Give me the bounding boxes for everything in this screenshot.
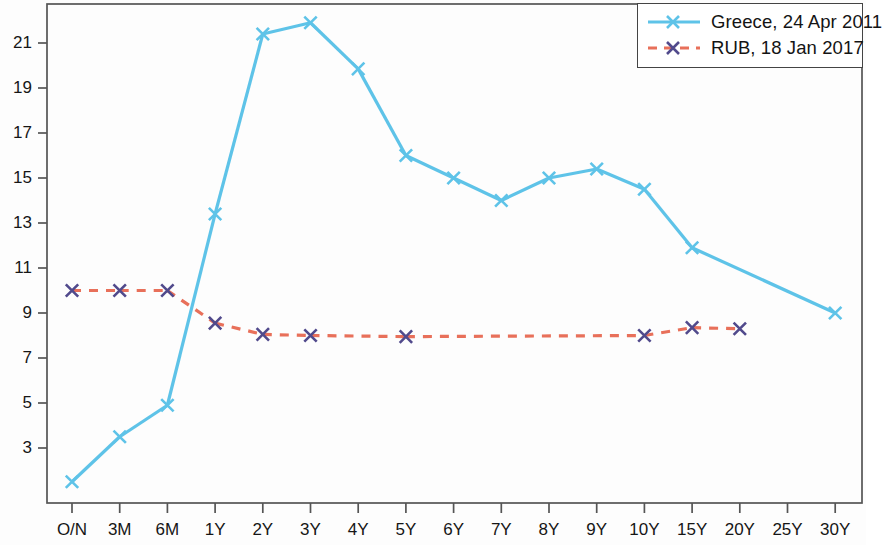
legend-item-greece: Greece, 24 Apr 2011 — [647, 9, 850, 35]
data-point-marker — [686, 242, 698, 254]
series-line-segment — [263, 334, 311, 335]
series-line-segment — [358, 69, 406, 156]
series-line-segment — [120, 405, 168, 437]
data-point-marker — [161, 284, 173, 296]
y-tick-label: 13 — [6, 213, 32, 233]
series-greece — [66, 17, 842, 488]
series-layer — [66, 17, 842, 488]
data-point-marker — [734, 323, 746, 335]
y-tick-label: 9 — [6, 303, 32, 323]
x-tick-label: 30Y — [805, 520, 865, 540]
legend-key-greece — [647, 12, 701, 32]
series-line-segment — [167, 214, 215, 405]
legend-key-rub — [647, 38, 701, 58]
data-point-marker — [447, 172, 459, 184]
y-tick-label: 21 — [6, 33, 32, 53]
series-line-segment — [501, 178, 549, 201]
series-rub — [66, 284, 746, 343]
data-point-marker — [638, 183, 650, 195]
series-line-segment — [311, 23, 359, 69]
y-axis-ticks — [38, 43, 47, 448]
data-point-marker — [829, 307, 841, 319]
data-point-marker — [352, 63, 364, 75]
data-point-marker — [66, 476, 78, 488]
series-line-segment — [215, 34, 263, 214]
x-axis-ticks — [72, 503, 835, 513]
series-line-segment — [72, 437, 120, 482]
y-tick-label: 11 — [6, 258, 32, 278]
series-line-segment — [644, 328, 692, 336]
data-point-marker — [495, 194, 507, 206]
data-point-marker — [400, 149, 412, 161]
y-tick-label: 7 — [6, 348, 32, 368]
legend-label-greece: Greece, 24 Apr 2011 — [711, 11, 882, 33]
chart-legend: Greece, 24 Apr 2011 RUB, 18 Jan 2017 — [637, 3, 863, 68]
series-line-segment — [597, 169, 645, 189]
series-line-segment — [263, 23, 311, 34]
series-line-segment — [549, 169, 597, 178]
series-line-segment — [644, 189, 692, 248]
data-point-marker — [114, 431, 126, 443]
y-tick-label: 5 — [6, 393, 32, 413]
series-line-segment — [454, 178, 502, 201]
plot-frame — [47, 4, 862, 503]
y-tick-label: 15 — [6, 168, 32, 188]
series-line-segment — [406, 336, 645, 337]
series-line-segment — [692, 248, 835, 313]
series-line-segment — [406, 156, 454, 179]
y-tick-label: 19 — [6, 78, 32, 98]
series-line-segment — [215, 323, 263, 334]
y-tick-label: 3 — [6, 438, 32, 458]
legend-label-rub: RUB, 18 Jan 2017 — [711, 37, 864, 59]
series-line-segment — [692, 328, 740, 329]
series-line-segment — [311, 336, 406, 337]
y-tick-label: 17 — [6, 123, 32, 143]
legend-item-rub: RUB, 18 Jan 2017 — [647, 35, 850, 61]
